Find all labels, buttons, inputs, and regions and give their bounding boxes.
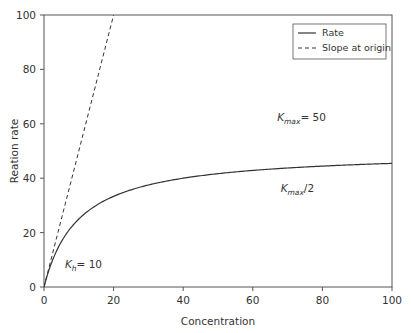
x-tick-label: 80 bbox=[316, 294, 329, 306]
x-tick-label: 100 bbox=[382, 294, 402, 306]
y-tick-label: 0 bbox=[29, 281, 36, 293]
annotations: Kmax= 50Kmax/2Kh= 10 bbox=[65, 111, 326, 273]
x-tick-label: 20 bbox=[107, 294, 120, 306]
slope-at-origin-line bbox=[44, 15, 114, 287]
annotation-label: Kmax/2 bbox=[281, 182, 314, 197]
legend-label-rate: Rate bbox=[322, 27, 344, 38]
x-tick-label: 40 bbox=[177, 294, 190, 306]
x-axis-ticks: 020406080100 bbox=[41, 287, 402, 306]
legend-label-slope: Slope at origin bbox=[322, 42, 391, 53]
y-tick-label: 40 bbox=[23, 172, 36, 184]
x-tick-label: 0 bbox=[41, 294, 48, 306]
x-axis-label: Concentration bbox=[181, 315, 255, 327]
legend: Rate Slope at origin bbox=[293, 24, 391, 59]
y-tick-label: 60 bbox=[23, 118, 36, 130]
x-tick-label: 60 bbox=[246, 294, 259, 306]
y-tick-label: 20 bbox=[23, 227, 36, 239]
annotation-label: Kmax= 50 bbox=[277, 111, 326, 126]
y-tick-label: 100 bbox=[16, 9, 36, 21]
y-tick-label: 80 bbox=[23, 63, 36, 75]
y-axis-ticks: 020406080100 bbox=[16, 9, 44, 293]
chart: 020406080100 020406080100 Concentration … bbox=[0, 0, 411, 333]
annotation-label: Kh= 10 bbox=[65, 258, 102, 273]
y-axis-label: Reation rate bbox=[8, 119, 20, 184]
